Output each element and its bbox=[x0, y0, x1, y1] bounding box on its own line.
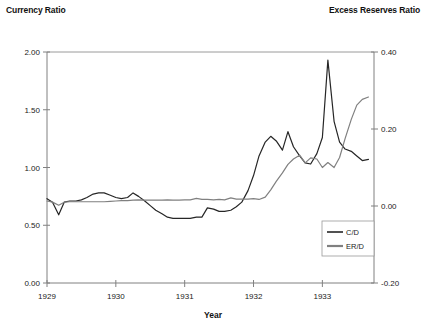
x-axis-title: Year bbox=[0, 310, 426, 320]
y2-tick-label: 0.40 bbox=[381, 48, 397, 57]
y-tick-label: 0.50 bbox=[24, 221, 40, 230]
line-chart-plot: 0.000.501.001.502.00-0.200.000.200.40192… bbox=[0, 0, 426, 326]
x-tick-label: 1931 bbox=[176, 292, 194, 301]
legend-label-c-d: C/D bbox=[346, 228, 360, 237]
x-tick-label: 1929 bbox=[38, 292, 56, 301]
series-group bbox=[47, 60, 368, 218]
y-tick-label: 2.00 bbox=[24, 48, 40, 57]
legend-label-er-d: ER/D bbox=[346, 242, 365, 251]
y-tick-label: 1.00 bbox=[24, 164, 40, 173]
y-tick-label: 1.50 bbox=[24, 106, 40, 115]
x-tick-label: 1933 bbox=[313, 292, 331, 301]
series-line-c-d bbox=[47, 60, 368, 218]
axes-group: 0.000.501.001.502.00-0.200.000.200.40192… bbox=[24, 48, 399, 301]
chart-figure: Currency Ratio Excess Reserves Ratio 0.0… bbox=[0, 0, 426, 326]
y2-tick-label: 0.20 bbox=[381, 125, 397, 134]
y2-tick-label: -0.20 bbox=[381, 279, 400, 288]
x-tick-label: 1930 bbox=[107, 292, 125, 301]
y2-tick-label: 0.00 bbox=[381, 202, 397, 211]
y-tick-label: 0.00 bbox=[24, 279, 40, 288]
series-line-er-d bbox=[47, 97, 368, 205]
chart-legend: C/DER/D bbox=[322, 221, 374, 256]
x-tick-label: 1932 bbox=[245, 292, 263, 301]
